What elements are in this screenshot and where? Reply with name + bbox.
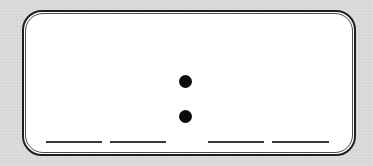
- colon-dot-bottom-icon: [179, 110, 192, 123]
- blank-hour-tens[interactable]: [46, 141, 102, 143]
- blank-hour-ones[interactable]: [110, 141, 166, 143]
- blank-minute-ones[interactable]: [272, 141, 329, 143]
- colon-separator: :: [0, 0, 1, 1]
- colon-dot-top-icon: [179, 75, 192, 88]
- clock-label: __ __ : __ __: [0, 0, 1, 1]
- blank-minute-tens[interactable]: [208, 141, 264, 143]
